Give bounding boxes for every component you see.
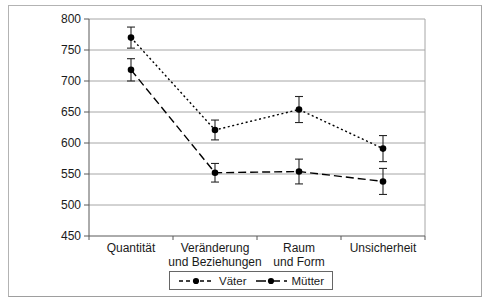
legend-marker-dotted-line-icon xyxy=(178,276,215,286)
data-point-marker xyxy=(212,169,219,176)
data-point-marker xyxy=(128,67,135,74)
data-point-marker xyxy=(380,145,387,152)
series-line-0 xyxy=(131,38,383,149)
x-category-label: Veränderung xyxy=(181,241,250,255)
y-tick-label-550: 550 xyxy=(61,167,81,181)
data-point-marker xyxy=(380,178,387,185)
legend-label-vaeter: Väter xyxy=(219,275,247,287)
data-point-marker xyxy=(128,34,135,41)
chart-figure: 450500550600650700750800QuantitätVerände… xyxy=(0,0,490,308)
y-tick-label-450: 450 xyxy=(61,229,81,243)
y-tick-label-700: 700 xyxy=(61,74,81,88)
data-point-marker xyxy=(296,106,303,113)
x-category-label: und Form xyxy=(273,255,324,269)
x-category-label: Unsicherheit xyxy=(350,241,417,255)
data-point-marker xyxy=(212,127,219,134)
data-point-marker xyxy=(296,168,303,175)
y-tick-label-500: 500 xyxy=(61,198,81,212)
legend-item-vaeter: Väter xyxy=(178,275,247,287)
y-tick-label-800: 800 xyxy=(61,12,81,26)
y-tick-label-600: 600 xyxy=(61,136,81,150)
legend-marker-dashed-line-icon xyxy=(255,276,288,286)
x-category-label: Raum xyxy=(283,241,315,255)
legend-label-muetter: Mütter xyxy=(292,275,325,287)
series-line-1 xyxy=(131,70,383,182)
x-category-label: und Beziehungen xyxy=(168,255,261,269)
legend-item-muetter: Mütter xyxy=(255,275,325,287)
line-chart-canvas: 450500550600650700750800QuantitätVerände… xyxy=(0,0,490,308)
x-category-label: Quantität xyxy=(107,241,156,255)
y-tick-label-750: 750 xyxy=(61,43,81,57)
legend: Väter Mütter xyxy=(169,271,333,290)
y-tick-label-650: 650 xyxy=(61,105,81,119)
